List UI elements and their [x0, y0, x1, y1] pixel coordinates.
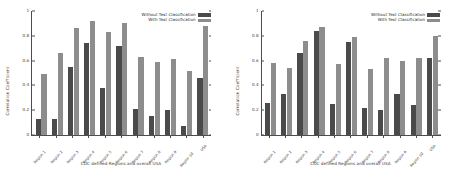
x-tick-mark: [432, 136, 433, 138]
bar: [400, 61, 405, 135]
bar-group: [165, 11, 176, 135]
plot-area-left: 00.20.40.60.81: [31, 11, 211, 136]
x-tick: Region 3: [296, 136, 307, 162]
bar-group: [100, 11, 111, 135]
x-tick: Region 9: [394, 136, 405, 162]
x-tick: Region 2: [50, 136, 61, 162]
bar: [155, 62, 160, 135]
bar: [165, 110, 170, 135]
bar: [203, 26, 208, 135]
x-tick-label: USA: [200, 145, 208, 153]
y-tick-label: 0.4: [22, 83, 32, 87]
bar-group: [427, 11, 438, 135]
bar-group: [52, 11, 63, 135]
x-tick: Region 3: [66, 136, 77, 162]
bar: [297, 53, 302, 135]
bar: [171, 59, 176, 135]
bar: [197, 78, 202, 135]
bar: [411, 105, 416, 135]
bar: [41, 74, 46, 135]
x-axis-ticks-left: Region 1Region 2Region 3Region 4Region 5…: [31, 136, 211, 162]
x-tick-mark: [170, 136, 171, 138]
bar-group: [116, 11, 127, 135]
x-tick-mark: [186, 136, 187, 138]
figure-two-panel-bar-charts: Correlation Coefficient 00.20.40.60.81 R…: [0, 0, 459, 181]
bar: [187, 71, 192, 135]
bar: [138, 57, 143, 135]
x-tick-mark: [367, 136, 368, 138]
x-axis-label-right: CDC defined Regions and overall USA: [261, 161, 441, 166]
x-tick: Region 10: [410, 136, 421, 162]
bar: [378, 110, 383, 135]
bar: [384, 58, 389, 135]
x-tick: Region 7: [361, 136, 372, 162]
y-tick-label: 0.4: [252, 83, 262, 87]
bar: [181, 126, 186, 135]
x-tick-mark: [105, 136, 106, 138]
bar-group: [346, 11, 357, 135]
bar: [433, 36, 438, 135]
legend-label-series-1-left: With Text Classification: [148, 18, 195, 22]
x-tick-mark: [400, 136, 401, 138]
bar: [68, 67, 73, 135]
y-axis-label-left: Correlation Coefficient: [5, 66, 10, 115]
x-tick-mark: [56, 136, 57, 138]
bar: [319, 27, 324, 135]
legend-swatch-series-0-right: [427, 13, 440, 16]
chart-panel-right: Correlation Coefficient 00.20.40.60.81 R…: [230, 0, 459, 181]
bar-group: [84, 11, 95, 135]
bar: [314, 31, 319, 135]
chart-panel-left: Correlation Coefficient 00.20.40.60.81 R…: [0, 0, 230, 181]
x-tick: Region 2: [280, 136, 291, 162]
bar-groups-left: [33, 11, 211, 135]
x-tick-mark: [301, 136, 302, 138]
y-tick-label: 0.6: [22, 59, 32, 63]
bar-group: [281, 11, 292, 135]
x-axis-ticks-right: Region 1Region 2Region 3Region 4Region 5…: [261, 136, 441, 162]
bar: [106, 32, 111, 135]
legend-item-with-text-classification: With Text Classification: [378, 18, 440, 22]
x-tick: Region 9: [165, 136, 176, 162]
x-tick-mark: [203, 136, 204, 138]
bar: [90, 21, 95, 135]
bar: [149, 116, 154, 135]
legend-swatch-series-0-left: [198, 13, 211, 16]
x-tick: USA: [427, 136, 438, 162]
bar: [346, 42, 351, 135]
x-tick: Region 8: [148, 136, 159, 162]
bar: [84, 43, 89, 135]
bar-group: [362, 11, 373, 135]
bar: [100, 88, 105, 135]
x-tick-mark: [350, 136, 351, 138]
x-tick: Region 5: [99, 136, 110, 162]
y-tick-label: 0.2: [22, 108, 32, 112]
bar-group: [265, 11, 276, 135]
x-tick: Region 5: [329, 136, 340, 162]
x-tick-mark: [416, 136, 417, 138]
bar: [336, 64, 341, 135]
x-tick-mark: [383, 136, 384, 138]
x-tick: Region 6: [115, 136, 126, 162]
bar: [368, 69, 373, 135]
bar-group: [149, 11, 160, 135]
bar-group: [378, 11, 389, 135]
x-tick-mark: [88, 136, 89, 138]
bar: [330, 104, 335, 135]
x-tick-mark: [137, 136, 138, 138]
bar: [58, 53, 63, 135]
legend-left: Without Text Classification With Text Cl…: [142, 13, 211, 22]
x-tick-mark: [39, 136, 40, 138]
x-tick: Region 6: [345, 136, 356, 162]
x-tick: Region 4: [312, 136, 323, 162]
x-tick: Region 10: [181, 136, 192, 162]
legend-right: Without Text Classification With Text Cl…: [371, 13, 440, 22]
bar: [271, 63, 276, 135]
x-tick: Region 4: [83, 136, 94, 162]
bar: [281, 94, 286, 135]
x-tick-mark: [285, 136, 286, 138]
bar-group: [181, 11, 192, 135]
x-tick: Region 8: [378, 136, 389, 162]
bar: [416, 58, 421, 135]
x-tick-label: USA: [430, 145, 438, 153]
x-tick: Region 1: [263, 136, 274, 162]
